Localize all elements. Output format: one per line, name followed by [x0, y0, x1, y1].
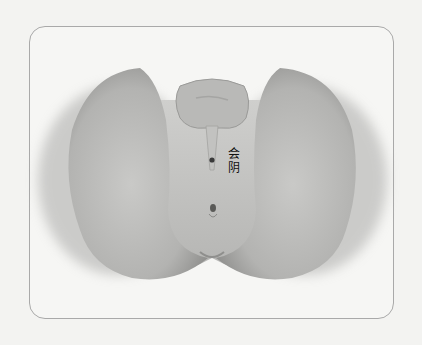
anus-marker [210, 204, 216, 212]
perineum-illustration [0, 0, 422, 345]
huiyin-label-line1: 会 [227, 147, 241, 161]
huiyin-label: 会 阴 [227, 147, 241, 175]
upper-bulb [176, 79, 249, 128]
huiyin-point-marker [209, 157, 214, 162]
huiyin-label-line2: 阴 [227, 161, 241, 175]
